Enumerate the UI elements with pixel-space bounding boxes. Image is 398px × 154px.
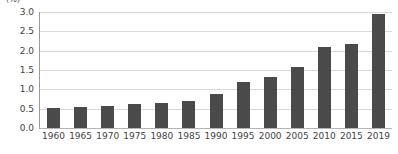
x-tick-label: 1995 bbox=[230, 131, 257, 142]
y-tick-label: 0.5 bbox=[20, 105, 34, 114]
x-tick-label: 1990 bbox=[202, 131, 229, 142]
x-tick-label: 1965 bbox=[67, 131, 94, 142]
bar[interactable] bbox=[182, 101, 195, 128]
x-tick-label: 1960 bbox=[40, 131, 67, 142]
bar[interactable] bbox=[264, 77, 277, 128]
bar-chart: (%) 0.00.51.01.52.02.53.0 19601965197019… bbox=[0, 0, 398, 154]
y-tick-label: 0.0 bbox=[20, 124, 34, 133]
x-tick-label: 1985 bbox=[175, 131, 202, 142]
bar[interactable] bbox=[345, 44, 358, 128]
bar[interactable] bbox=[210, 94, 223, 128]
bar[interactable] bbox=[318, 47, 331, 128]
plot-area bbox=[40, 12, 392, 128]
y-tick-label: 2.0 bbox=[20, 47, 34, 56]
bar[interactable] bbox=[237, 82, 250, 128]
y-tick-label: 3.0 bbox=[20, 8, 34, 17]
bars-group bbox=[40, 12, 392, 128]
bar[interactable] bbox=[155, 103, 168, 128]
x-tick-label: 1970 bbox=[94, 131, 121, 142]
y-tick-label: 1.5 bbox=[20, 66, 34, 75]
x-tick-label: 1975 bbox=[121, 131, 148, 142]
y-axis-tick-labels: 0.00.51.01.52.02.53.0 bbox=[0, 0, 40, 154]
x-tick-label: 2005 bbox=[284, 131, 311, 142]
bar[interactable] bbox=[291, 67, 304, 128]
x-tick-label: 1980 bbox=[148, 131, 175, 142]
x-tick-label: 2010 bbox=[311, 131, 338, 142]
y-tick-label: 1.0 bbox=[20, 85, 34, 94]
x-axis-tick-labels: 1960196519701975198019851990199520002005… bbox=[40, 131, 392, 145]
x-tick-label: 2019 bbox=[365, 131, 392, 142]
y-tick-label: 2.5 bbox=[20, 27, 34, 36]
bar[interactable] bbox=[128, 104, 141, 128]
bar[interactable] bbox=[101, 106, 114, 128]
bar[interactable] bbox=[74, 107, 87, 128]
bar[interactable] bbox=[47, 108, 60, 128]
bar[interactable] bbox=[372, 14, 385, 128]
x-tick-label: 2000 bbox=[257, 131, 284, 142]
x-tick-label: 2015 bbox=[338, 131, 365, 142]
gridline bbox=[40, 128, 392, 129]
